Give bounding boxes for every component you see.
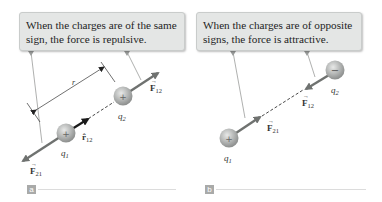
svg-text:+: + xyxy=(119,92,127,102)
callout-opposite-sign: When the charges are of opposite signs, … xyxy=(196,12,362,51)
label-F21: F21 xyxy=(267,123,279,134)
distance-r-dimension xyxy=(27,62,115,122)
label-q2: q2 xyxy=(331,85,340,96)
panel-b: + − q1 q2 F12 → F21 → When the charges a… xyxy=(191,0,382,202)
force-F21-arrow xyxy=(236,117,260,133)
force-F12-arrow xyxy=(306,75,329,89)
callout-text: When the charges are of opposite signs, … xyxy=(203,19,352,45)
svg-text:+: + xyxy=(62,129,70,139)
svg-text:→: → xyxy=(151,78,157,84)
svg-text:→: → xyxy=(268,118,274,124)
svg-text:→: → xyxy=(31,161,37,167)
panel-a: + + q1 q2 r r̂12 F12 → F21 → When the ch… xyxy=(0,0,191,202)
label-F21: F21 xyxy=(30,166,42,177)
charge-q1: + xyxy=(57,124,76,143)
panel-b-rule xyxy=(216,189,366,190)
panel-tag-b: b xyxy=(205,185,214,194)
label-r: r xyxy=(72,78,76,87)
label-q2: q2 xyxy=(118,111,127,122)
label-q1: q1 xyxy=(224,153,232,164)
unit-vector-r12-arrow xyxy=(72,119,88,129)
svg-text:−: − xyxy=(331,65,339,76)
svg-text:+: + xyxy=(225,134,233,144)
charge-q1: + xyxy=(220,129,239,148)
label-q1: q1 xyxy=(61,148,69,159)
label-F12: F12 xyxy=(150,83,162,94)
callout-text: When the charges are of the same sign, t… xyxy=(26,19,177,45)
panel-tag-a: a xyxy=(27,185,36,194)
callout-same-sign: When the charges are of the same sign, t… xyxy=(19,12,185,51)
svg-text:→: → xyxy=(303,93,309,99)
charge-q2: + xyxy=(114,87,133,106)
charge-q2: − xyxy=(326,61,345,80)
separation-line xyxy=(262,90,303,116)
label-r12-hat: r̂12 xyxy=(82,132,93,143)
label-F12: F12 xyxy=(302,98,314,109)
panel-a-rule xyxy=(38,189,176,190)
